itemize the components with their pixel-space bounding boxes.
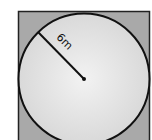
inscribed-circle-diagram: 6m (0, 0, 152, 140)
center-point (82, 77, 86, 81)
